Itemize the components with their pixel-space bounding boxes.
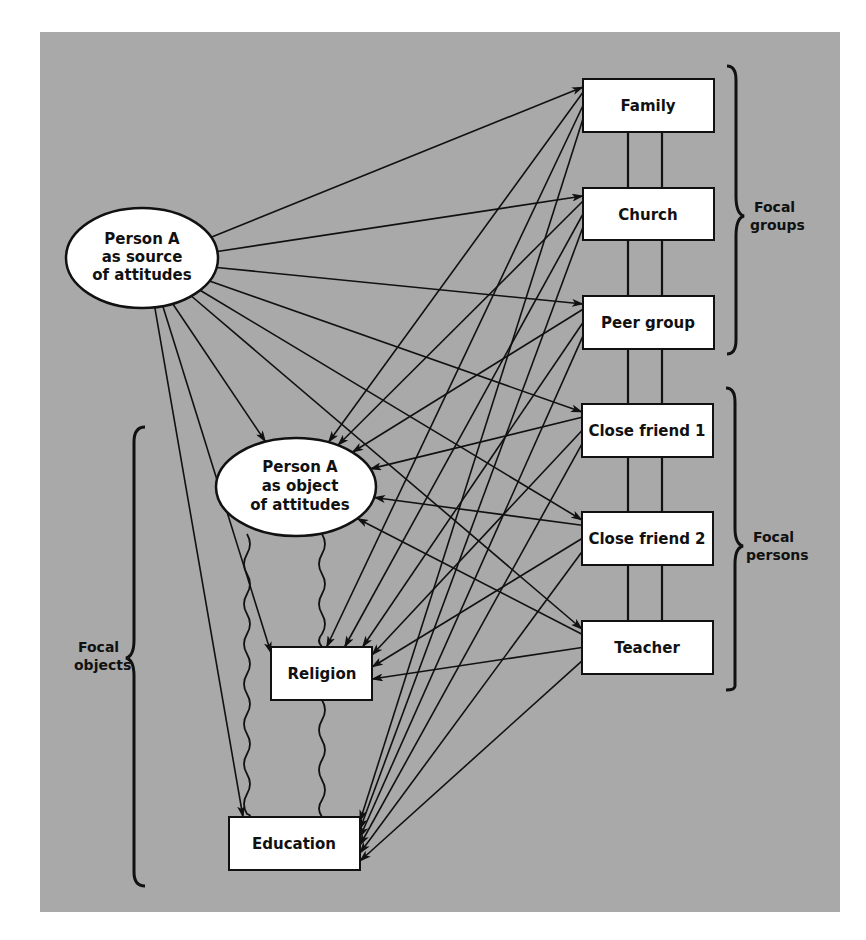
node-person-a-source: Person A as source of attitudes xyxy=(66,208,218,308)
focal-groups-label-1: Focal xyxy=(754,199,795,215)
edge-peer-to-object xyxy=(352,309,583,452)
object-line-3: of attitudes xyxy=(250,496,349,514)
edge-source-to-family xyxy=(211,87,583,237)
education-label: Education xyxy=(252,835,336,853)
focal-groups-bracket xyxy=(727,66,744,354)
edge-church-to-education xyxy=(360,227,583,829)
focal-groups-label-2: groups xyxy=(750,217,805,233)
close-friend-2-label: Close friend 2 xyxy=(588,530,705,548)
focal-persons-bracket xyxy=(726,388,743,690)
peer-group-label: Peer group xyxy=(601,314,695,332)
source-line-3: of attitudes xyxy=(92,266,191,284)
source-line-1: Person A xyxy=(104,230,180,248)
edge-teacher-to-religion xyxy=(372,648,582,680)
edge-friend2-to-education xyxy=(360,552,582,853)
edge-source-to-peer xyxy=(217,268,583,305)
object-line-2: as object xyxy=(262,477,339,495)
edge-peer-to-religion xyxy=(363,323,583,648)
family-label: Family xyxy=(620,97,675,115)
focal-persons-label-2: persons xyxy=(746,547,809,563)
edge-source-to-education xyxy=(155,307,243,817)
focal-persons-label-1: Focal xyxy=(753,529,794,545)
focal-objects-label-2: objects xyxy=(74,657,131,673)
edge-peer-to-education xyxy=(360,336,583,837)
edge-source-to-church xyxy=(217,196,583,252)
edge-church-to-object xyxy=(338,201,583,445)
edge-friend1-to-object xyxy=(370,417,582,469)
edge-teacher-to-object xyxy=(357,519,582,635)
edge-friend1-to-education xyxy=(360,444,582,845)
node-education: Education xyxy=(229,817,360,870)
religion-label: Religion xyxy=(288,665,357,683)
edge-family-to-object xyxy=(329,92,584,442)
node-peer-group: Peer group xyxy=(583,296,714,349)
node-religion: Religion xyxy=(271,647,372,700)
attitude-network-diagram: Person A as source of attitudes Person A… xyxy=(0,0,866,940)
close-friend-1-label: Close friend 1 xyxy=(588,422,705,440)
wavy-link-right-upper xyxy=(319,534,325,647)
node-person-a-object: Person A as object of attitudes xyxy=(216,438,376,536)
focal-objects-label-1: Focal xyxy=(78,639,119,655)
node-close-friend-2: Close friend 2 xyxy=(582,512,713,565)
node-church: Church xyxy=(583,188,714,240)
edge-source-to-friend1 xyxy=(210,281,583,412)
node-close-friend-1: Close friend 1 xyxy=(582,404,713,457)
edge-church-to-religion xyxy=(345,214,583,647)
church-label: Church xyxy=(618,206,677,224)
node-teacher: Teacher xyxy=(582,621,713,674)
edge-source-to-object xyxy=(173,304,266,442)
object-line-1: Person A xyxy=(262,458,338,476)
teacher-label: Teacher xyxy=(614,639,680,657)
source-line-2: as source xyxy=(102,248,183,266)
node-family: Family xyxy=(583,79,714,132)
wavy-link-right-lower xyxy=(319,700,325,817)
